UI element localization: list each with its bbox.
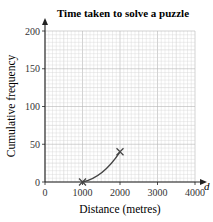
axes <box>42 18 207 185</box>
y-tick-label: 200 <box>25 26 40 37</box>
y-tick-label: 50 <box>30 139 40 150</box>
x-tick-label: 3000 <box>148 187 168 198</box>
chart-title: Time taken to solve a puzzle <box>57 7 189 19</box>
x-tick-label: 2000 <box>110 187 130 198</box>
y-tick-label: 100 <box>25 101 40 112</box>
y-tick-label: 0 <box>35 177 40 188</box>
x-axis-symbol: d <box>204 180 210 192</box>
grid <box>45 31 195 182</box>
tick-labels: 01000200030004000050100150200 <box>25 26 205 199</box>
cumulative-frequency-chart: 01000200030004000050100150200 Time taken… <box>0 0 213 222</box>
x-tick-label: 1000 <box>73 187 93 198</box>
y-tick-label: 150 <box>25 63 40 74</box>
x-tick-label: 0 <box>43 187 48 198</box>
x-axis-label: Distance (metres) <box>79 203 161 216</box>
y-axis-arrow-icon <box>42 18 48 25</box>
y-axis-label: Cumulative frequency <box>5 55 18 158</box>
x-tick-label: 4000 <box>185 187 205 198</box>
